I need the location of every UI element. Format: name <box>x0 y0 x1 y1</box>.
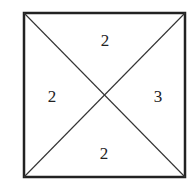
region-right-label: 3 <box>154 88 163 105</box>
region-left-label: 2 <box>48 88 57 105</box>
square-diagram: 2 2 3 2 <box>0 0 195 194</box>
region-bottom-label: 2 <box>100 145 109 162</box>
diagram-canvas <box>0 0 195 194</box>
region-top-label: 2 <box>101 32 110 49</box>
